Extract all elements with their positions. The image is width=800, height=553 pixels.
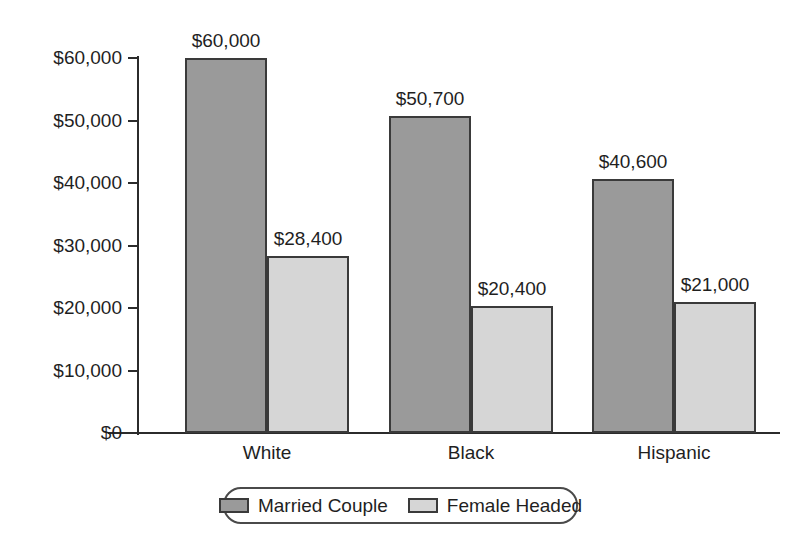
bar-value-label: $40,600 (599, 152, 668, 171)
bars-layer (137, 58, 777, 433)
bar-black-series-0 (389, 116, 471, 433)
legend-entry-married-couple[interactable]: Married Couple (219, 496, 388, 515)
y-axis-tick-label: $60,000 (2, 48, 122, 67)
legend-entry-female-headed[interactable]: Female Headed (408, 496, 582, 515)
bar-value-label: $28,400 (274, 229, 343, 248)
x-axis-category-label-hispanic: Hispanic (638, 442, 711, 464)
bar-white-series-0 (185, 58, 267, 433)
bar-black-series-1 (471, 306, 553, 434)
y-axis-tick-label: $30,000 (2, 236, 122, 255)
legend-swatch-icon (408, 498, 438, 513)
legend-label: Female Headed (447, 496, 582, 515)
x-axis-category-label-black: Black (448, 442, 494, 464)
y-axis-tick-label: $0 (2, 423, 122, 442)
bar-chart-figure: $60,000$50,000$40,000$30,000$20,000$10,0… (0, 0, 800, 553)
bar-value-label: $20,400 (478, 279, 547, 298)
x-axis-category-label-white: White (243, 442, 292, 464)
chart-legend: Married CoupleFemale Headed (223, 487, 578, 524)
bar-value-label: $21,000 (681, 275, 750, 294)
bar-value-label: $50,700 (396, 89, 465, 108)
legend-swatch-icon (219, 498, 249, 513)
y-axis-tick-label: $10,000 (2, 361, 122, 380)
bar-value-label: $60,000 (192, 31, 261, 50)
legend-label: Married Couple (258, 496, 388, 515)
bar-hispanic-series-1 (674, 302, 756, 433)
y-axis-tick-label: $50,000 (2, 111, 122, 130)
y-axis-tick-label: $40,000 (2, 173, 122, 192)
bar-hispanic-series-0 (592, 179, 674, 433)
y-axis-tick-label: $20,000 (2, 298, 122, 317)
bar-white-series-1 (267, 256, 349, 434)
